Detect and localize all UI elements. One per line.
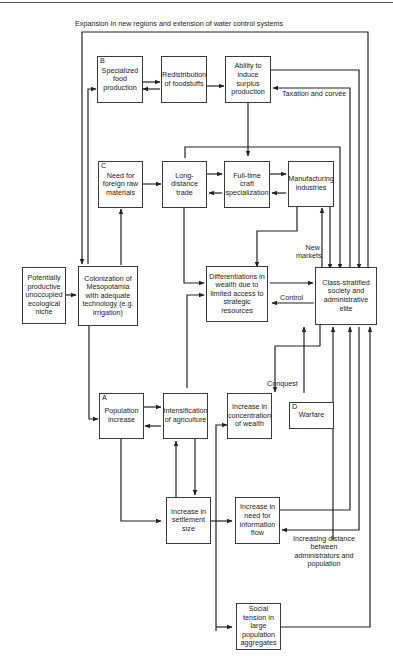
node-label: Population increase: [102, 407, 141, 424]
node-label: Warfare: [299, 411, 324, 420]
node-label: Increase in settlement size: [169, 508, 208, 534]
node-increase-in-need-for-information-flow: Increase in need for information flow: [235, 497, 280, 544]
edge-label-new-markets: New markets: [296, 244, 320, 261]
edge-label-conquest: Conquest: [267, 380, 298, 388]
node-tag-a: A: [102, 394, 107, 403]
node-label: Intensification of agriculture: [164, 407, 208, 424]
node-intensification-of-agriculture: Intensification of agriculture: [163, 393, 208, 439]
node-tag-d: D: [292, 403, 297, 412]
edge-label-increasing-distance: Increasing distance between administrato…: [287, 535, 361, 569]
edge-label-control: Control: [280, 294, 303, 302]
node-label: Colonization of Mesopotamia with adequat…: [81, 275, 135, 318]
node-label: Increase in concentration of wealth: [228, 403, 271, 429]
node-differentiations-in-wealth: Differentiations in wealth due to limite…: [206, 266, 268, 322]
node-social-tension: Social tension in large population aggre…: [236, 603, 281, 650]
node-class-stratified-society: Class-stratified society and administrat…: [315, 267, 377, 325]
node-label: Differentiations in wealth due to limite…: [209, 273, 265, 316]
node-increase-in-settlement-size: Increase in settlement size: [166, 497, 211, 544]
node-label: Social tension in large population aggre…: [239, 605, 278, 648]
node-colonization-of-mesopotamia: Colonization of Mesopotamia with adequat…: [78, 266, 138, 326]
node-increase-in-concentration-of-wealth: Increase in concentration of wealth: [227, 393, 272, 439]
node-label: Class-stratified society and administrat…: [318, 279, 374, 313]
node-population-increase: A Population increase: [99, 393, 144, 439]
node-warfare: D Warfare: [289, 402, 334, 429]
node-label: Increase in need for information flow: [238, 503, 277, 537]
